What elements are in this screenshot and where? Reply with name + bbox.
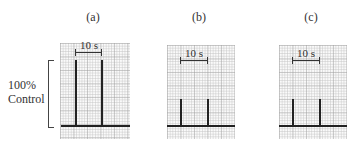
pulse-1 (75, 60, 77, 126)
baseline (279, 125, 347, 127)
scale-label: 10 s (297, 47, 315, 59)
y-annotation-line2: Control (8, 92, 45, 106)
pulse-1 (292, 99, 294, 126)
pulse-1 (180, 99, 182, 126)
y-annotation-line1: 100% (8, 78, 45, 92)
scale-label: 10 s (80, 39, 98, 51)
scale-bar (292, 60, 320, 61)
panel-label-b: (b) (192, 10, 206, 25)
pulse-2 (101, 60, 103, 126)
baseline (61, 125, 130, 127)
pulse-2 (207, 99, 209, 126)
baseline (167, 125, 235, 127)
panel-label-c: (c) (304, 10, 317, 25)
amplitude-bracket (48, 60, 54, 128)
pulse-2 (319, 99, 321, 126)
scale-bar (180, 60, 208, 61)
scale-label: 10 s (185, 47, 203, 59)
panel-label-a: (a) (86, 10, 99, 25)
scale-bar (75, 52, 102, 53)
y-annotation: 100% Control (8, 78, 45, 106)
